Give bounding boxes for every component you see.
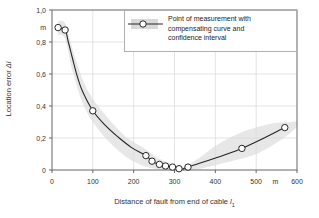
legend-point-marker	[140, 21, 146, 27]
x-tick-label: 400	[209, 178, 221, 185]
y-tick-label: 0	[42, 167, 46, 174]
legend: Point of measurement with compensating c…	[124, 10, 297, 52]
y-axis-title-text: Location error	[4, 68, 13, 116]
x-axis-subscript: 1	[232, 202, 235, 208]
x-tick-label: 0	[50, 178, 54, 185]
measurement-point	[185, 164, 191, 170]
y-tick-label: 0,6	[36, 71, 46, 78]
legend-line-1: Point of measurement with	[168, 14, 251, 24]
legend-marker-sample	[127, 17, 165, 31]
legend-line-3: confidence interval	[168, 33, 251, 43]
legend-text: Point of measurement with compensating c…	[168, 11, 251, 43]
x-tick-label: 100	[87, 178, 99, 185]
measurement-point	[176, 166, 182, 172]
chart-figure: 0100200300400500600m00,20,40,60,81,0m Lo…	[0, 0, 319, 218]
measurement-point	[156, 161, 162, 167]
measurement-point	[162, 163, 168, 169]
x-axis-unit: m	[272, 178, 278, 185]
y-axis-unit: m	[40, 24, 46, 31]
measurement-point	[55, 24, 61, 30]
x-tick-label: 500	[250, 178, 262, 185]
y-tick-label: 1,0	[36, 7, 46, 14]
measurement-point	[90, 108, 96, 114]
y-axis-variable: Δl	[4, 61, 13, 68]
x-tick-label: 300	[169, 178, 181, 185]
y-tick-label: 0,2	[36, 135, 46, 142]
legend-line-2: compensating curve and	[168, 24, 251, 34]
y-tick-label: 0,4	[36, 103, 46, 110]
measurement-point	[62, 27, 68, 33]
y-axis-title: Location error Δl	[4, 9, 14, 169]
x-tick-label: 200	[128, 178, 140, 185]
measurement-point	[143, 152, 149, 158]
measurement-point	[282, 124, 288, 130]
measurement-point	[239, 145, 245, 151]
measurement-point	[169, 164, 175, 170]
x-axis-title-text: Distance of fault from end of cable	[114, 197, 230, 206]
x-axis-title: Distance of fault from end of cable l1	[52, 197, 297, 208]
y-tick-label: 0,8	[36, 39, 46, 46]
x-tick-label: 600	[291, 178, 303, 185]
measurement-point	[149, 158, 155, 164]
